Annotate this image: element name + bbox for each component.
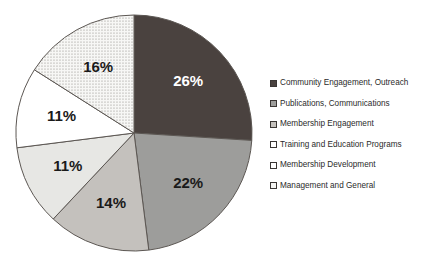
legend-item-label: Community Engagement, Outreach <box>280 79 408 87</box>
pie-chart-figure: 26%22%14%11%11%16% Community Engagement,… <box>0 0 425 269</box>
legend-swatch-icon <box>270 141 277 148</box>
legend-swatch-icon <box>270 100 277 107</box>
legend-swatch-icon <box>270 162 277 169</box>
legend-item[interactable]: Management and General <box>270 176 422 197</box>
legend-item-label: Membership Engagement <box>280 120 374 128</box>
legend-item[interactable]: Community Engagement, Outreach <box>270 73 422 94</box>
legend-swatch-icon <box>270 121 277 128</box>
legend-swatch-icon <box>270 80 277 87</box>
pie-slice-value-label: 22% <box>173 174 203 191</box>
legend-item-label: Publications, Communications <box>280 100 390 108</box>
pie-slice-value-label: 11% <box>47 107 76 124</box>
pie-slice-value-label: 14% <box>96 194 126 211</box>
pie-slices-group <box>16 15 252 251</box>
legend-item[interactable]: Membership Development <box>270 155 422 176</box>
pie-slice[interactable] <box>134 133 252 250</box>
legend-item-label: Membership Development <box>280 161 376 169</box>
pie-slice-value-label: 26% <box>173 72 203 89</box>
legend-item[interactable]: Training and Education Programs <box>270 135 422 156</box>
legend-swatch-icon <box>270 182 277 189</box>
legend-item[interactable]: Publications, Communications <box>270 94 422 115</box>
pie-chart-plot-area: 26%22%14%11%11%16% <box>14 11 254 255</box>
pie-chart-svg: 26%22%14%11%11%16% <box>14 11 254 255</box>
chart-legend: Community Engagement, OutreachPublicatio… <box>270 73 422 196</box>
legend-item-label: Management and General <box>280 182 375 190</box>
pie-slice-value-label: 16% <box>83 58 113 75</box>
pie-slice-value-label: 11% <box>53 157 82 174</box>
legend-item[interactable]: Membership Engagement <box>270 114 422 135</box>
legend-item-label: Training and Education Programs <box>280 141 402 149</box>
